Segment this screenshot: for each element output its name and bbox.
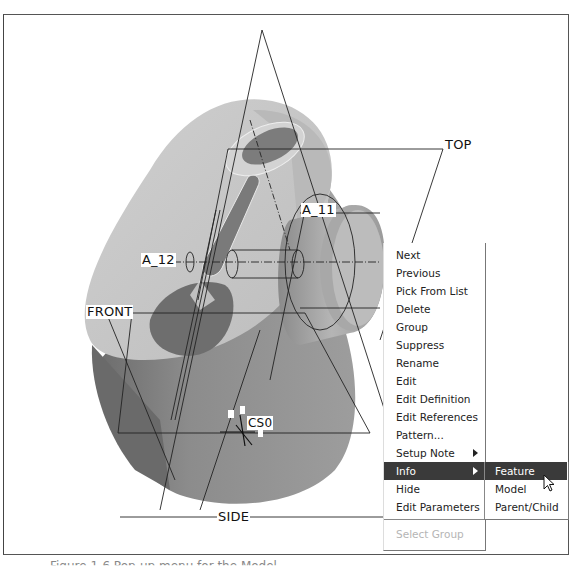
menu-item-label: Delete	[396, 303, 431, 315]
menu-item-label: Parent/Child	[495, 501, 559, 513]
context-menu: Next Previous Pick From List Delete Grou…	[383, 243, 486, 551]
menu-item-label: Select Group	[396, 528, 464, 540]
menu-item-label: Hide	[396, 483, 420, 495]
menu-item-label: Previous	[396, 267, 440, 279]
menu-item-edit[interactable]: Edit	[384, 372, 484, 390]
menu-item-label: Rename	[396, 357, 439, 369]
menu-item-label: Model	[495, 483, 527, 495]
menu-separator	[384, 519, 484, 520]
menu-item-suppress[interactable]: Suppress	[384, 336, 484, 354]
menu-item-label: Feature	[495, 465, 535, 477]
menu-item-group[interactable]: Group	[384, 318, 484, 336]
menu-item-hide[interactable]: Hide	[384, 480, 484, 498]
menu-item-label: Edit Definition	[396, 393, 471, 405]
datum-plane-front-label[interactable]: FRONT	[86, 305, 133, 319]
menu-item-label: Edit References	[396, 411, 478, 423]
coordinate-system-label[interactable]: CS0	[247, 416, 273, 430]
axis-a11-label[interactable]: A_11	[301, 203, 336, 217]
mouse-cursor-icon	[543, 474, 557, 494]
part-body[interactable]	[85, 99, 385, 503]
menu-item-edit-references[interactable]: Edit References	[384, 408, 484, 426]
menu-item-label: Setup Note	[396, 447, 455, 459]
menu-item-delete[interactable]: Delete	[384, 300, 484, 318]
menu-item-setup-note[interactable]: Setup Note	[384, 444, 484, 462]
menu-item-edit-definition[interactable]: Edit Definition	[384, 390, 484, 408]
submenu-arrow-icon	[473, 467, 478, 475]
submenu-arrow-icon	[473, 449, 478, 457]
menu-item-pick-from-list[interactable]: Pick From List	[384, 282, 484, 300]
axis-a12-label[interactable]: A_12	[141, 253, 176, 267]
menu-item-info[interactable]: Info	[384, 462, 484, 480]
menu-item-label: Info	[396, 465, 416, 477]
menu-item-previous[interactable]: Previous	[384, 264, 484, 282]
menu-item-label: Suppress	[396, 339, 444, 351]
menu-item-label: Next	[396, 249, 420, 261]
datum-plane-top-label[interactable]: TOP	[444, 138, 473, 152]
menu-item-label: Edit Parameters	[396, 501, 480, 513]
menu-item-next[interactable]: Next	[384, 246, 484, 264]
submenu-item-parent-child[interactable]: Parent/Child	[485, 498, 567, 516]
menu-item-select-group: Select Group	[384, 525, 484, 543]
menu-item-label: Pick From List	[396, 285, 468, 297]
datum-plane-side-label[interactable]: SIDE	[217, 510, 250, 524]
menu-item-pattern[interactable]: Pattern...	[384, 426, 484, 444]
menu-item-label: Group	[396, 321, 428, 333]
menu-item-label: Pattern...	[396, 429, 444, 441]
menu-item-rename[interactable]: Rename	[384, 354, 484, 372]
menu-item-edit-parameters[interactable]: Edit Parameters	[384, 498, 484, 516]
menu-item-label: Edit	[396, 375, 416, 387]
